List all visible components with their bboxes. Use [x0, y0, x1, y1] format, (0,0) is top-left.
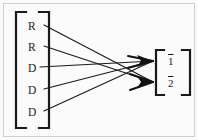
- source-item-1: R: [28, 42, 36, 54]
- source-item-4: D: [28, 107, 36, 119]
- source-item-0: R: [28, 21, 36, 33]
- target-bracket-close: [182, 50, 190, 95]
- edge-r1-to-2: [44, 25, 153, 82]
- source-bracket-open: [16, 12, 26, 128]
- mapping-edges: [40, 25, 153, 111]
- source-item-2: D: [28, 63, 36, 75]
- diagram-canvas: R R D D D 1 2: [0, 0, 198, 140]
- target-item-1: 2: [168, 78, 174, 89]
- target-bracket-open: [156, 50, 164, 95]
- edge-d3-to-1: [44, 61, 153, 111]
- source-item-3: D: [28, 85, 36, 97]
- target-item-0: 1: [168, 56, 174, 67]
